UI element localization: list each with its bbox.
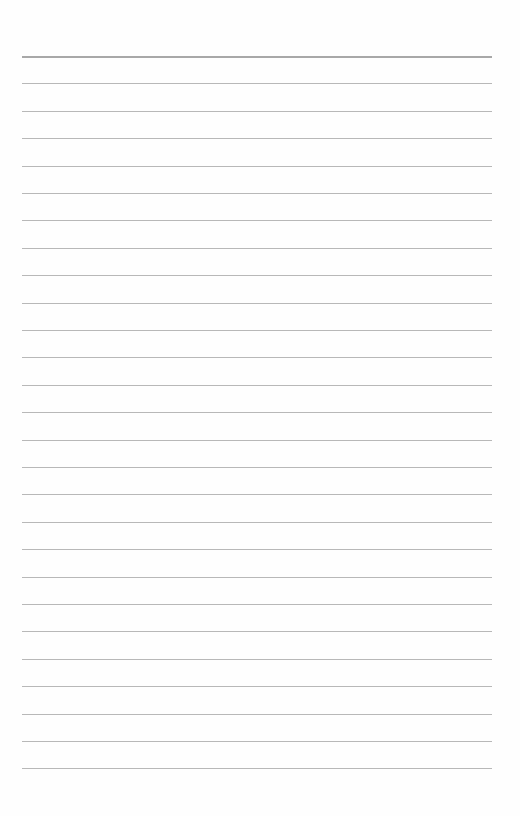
rule-line <box>22 549 492 550</box>
rule-line <box>22 193 492 194</box>
rule-line <box>22 357 492 358</box>
rule-line <box>22 467 492 468</box>
rule-line <box>22 741 492 742</box>
rule-line <box>22 659 492 660</box>
rule-line <box>22 604 492 605</box>
rule-line <box>22 330 492 331</box>
rule-line <box>22 714 492 715</box>
rule-line <box>22 303 492 304</box>
top-rule-line <box>22 56 492 58</box>
rule-line <box>22 166 492 167</box>
rule-line <box>22 577 492 578</box>
rule-line <box>22 275 492 276</box>
rule-line <box>22 138 492 139</box>
rule-line <box>22 522 492 523</box>
rule-line <box>22 111 492 112</box>
rule-line <box>22 220 492 221</box>
rule-line <box>22 440 492 441</box>
rule-line <box>22 494 492 495</box>
rule-line <box>22 631 492 632</box>
rule-line <box>22 768 492 769</box>
rule-line <box>22 412 492 413</box>
rule-line <box>22 686 492 687</box>
lined-paper-page <box>0 0 520 816</box>
rule-line <box>22 248 492 249</box>
rule-line <box>22 83 492 84</box>
rule-line <box>22 385 492 386</box>
